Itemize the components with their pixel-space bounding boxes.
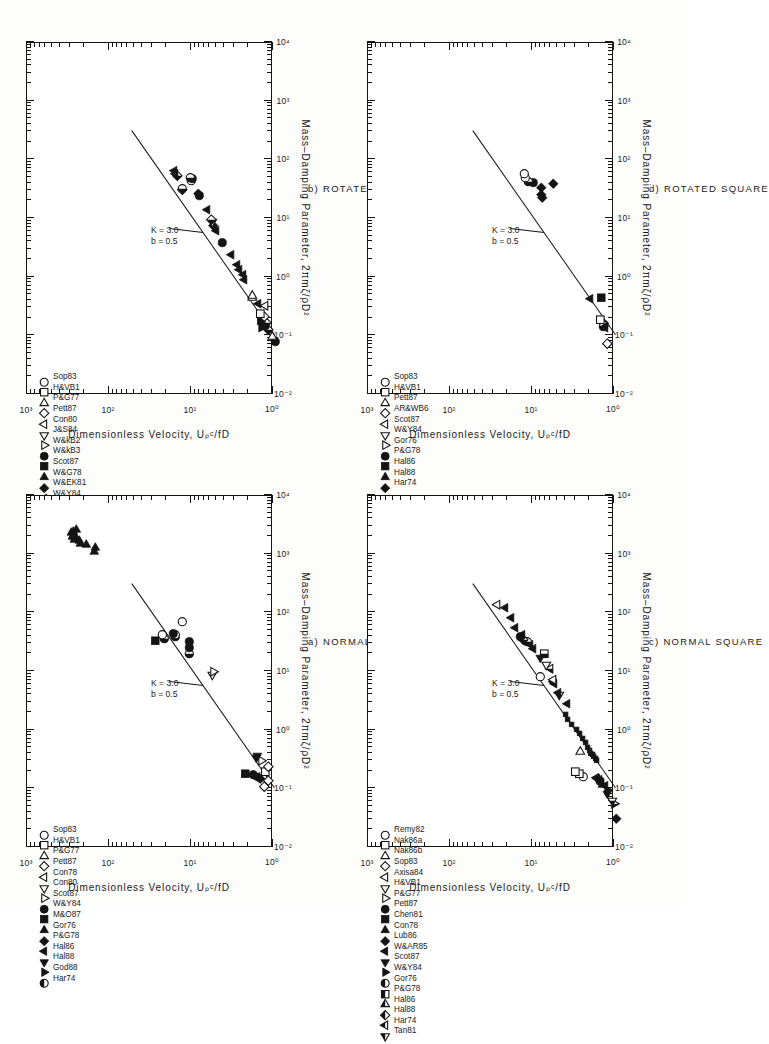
x-minor-tick (608, 620, 613, 621)
x-minor-tick (267, 235, 272, 236)
x-minor-tick-top (26, 167, 31, 168)
x-minor-tick (608, 512, 613, 513)
y-major-tick (613, 386, 614, 394)
x-minor-tick (608, 123, 613, 124)
x-minor-tick (267, 141, 272, 142)
x-minor-tick (608, 317, 613, 318)
x-minor-tick-top (367, 793, 372, 794)
legend-symbol-triangle-right-open-icon (381, 878, 392, 889)
x-minor-tick-top (367, 507, 372, 508)
legend-symbol-triangle-right-open-icon (40, 425, 51, 436)
x-minor-tick-top (367, 558, 372, 559)
x-minor-tick (267, 738, 272, 739)
legend-symbol-diamond-filled-icon (381, 931, 392, 942)
x-minor-tick (608, 281, 613, 282)
x-minor-tick (608, 130, 613, 131)
y-minor-tick-right (539, 42, 540, 47)
x-minor-tick-top (26, 281, 31, 282)
x-minor-tick-top (367, 818, 372, 819)
x-minor-tick-top (26, 731, 31, 732)
y-minor-tick-right (482, 42, 483, 47)
legend-label: Sop83 (53, 372, 77, 382)
data-point (558, 699, 567, 708)
x-minor-tick-top (26, 59, 31, 60)
x-minor-tick-top (367, 711, 372, 712)
x-minor-tick (267, 642, 272, 643)
y-major-tick (190, 386, 191, 394)
x-minor-tick (267, 566, 272, 567)
y-tick-label: 10¹ (184, 858, 197, 868)
y-minor-tick (223, 842, 224, 847)
x-minor-tick-top (367, 240, 372, 241)
y-minor-tick (121, 389, 122, 394)
x-minor-tick-top (367, 171, 372, 172)
x-minor-tick-top (367, 64, 372, 65)
y-minor-tick (121, 842, 122, 847)
x-tick-label: 10³ (277, 549, 290, 559)
data-point (145, 636, 154, 645)
x-minor-tick-top (367, 347, 372, 348)
x-major-tick (605, 553, 613, 554)
x-minor-tick (608, 117, 613, 118)
y-minor-tick-right (556, 495, 557, 500)
legend-label: Pett87 (394, 393, 418, 403)
data-point (597, 339, 606, 348)
legend-label: Hal86 (53, 942, 74, 952)
legend-label: God88 (53, 963, 78, 973)
y-minor-tick-right (392, 495, 393, 500)
x-minor-tick-top (26, 340, 31, 341)
legend-symbol-triangle-right-open-icon (381, 425, 392, 436)
x-minor-tick-top (26, 343, 31, 344)
x-minor-tick-top (367, 624, 372, 625)
data-point (556, 717, 561, 722)
x-minor-tick (608, 365, 613, 366)
x-minor-tick-top (26, 50, 31, 51)
x-minor-tick-top (367, 673, 372, 674)
legend-label: Sop83 (394, 372, 418, 382)
legend-label: W&Y84 (53, 899, 81, 909)
y-minor-tick (203, 389, 204, 394)
x-minor-tick-top (26, 594, 31, 595)
x-minor-tick (267, 113, 272, 114)
y-minor-tick-right (564, 495, 565, 500)
x-minor-tick (267, 64, 272, 65)
x-minor-tick-top (367, 258, 372, 259)
x-minor-tick-top (26, 676, 31, 677)
panel-d-rotor: 10⁻²10⁻¹10⁰10¹10²10³10⁴10⁰10¹10²10³Mass–… (341, 0, 681, 452)
y-minor-tick-right (69, 42, 70, 47)
y-minor-tick (133, 389, 134, 394)
x-minor-tick (267, 688, 272, 689)
y-minor-tick (215, 842, 216, 847)
x-minor-tick-top (26, 105, 31, 106)
legend-label: Axisa84 (394, 868, 423, 878)
panel-c-normal-square: 10⁻²10⁻¹10⁰10¹10²10³10⁴10⁰10¹10²10³Mass–… (341, 453, 681, 905)
x-minor-tick (608, 566, 613, 567)
x-minor-tick (267, 199, 272, 200)
x-minor-tick (608, 161, 613, 162)
legend-label: H&VB1 (53, 383, 80, 393)
y-minor-tick (467, 842, 468, 847)
x-minor-tick-top (26, 117, 31, 118)
y-tick-label: 10⁰ (606, 857, 620, 867)
y-minor-tick (574, 389, 575, 394)
panel-a-rotor: 10⁻²10⁻¹10⁰10¹10²10³10⁴10⁰10¹10²10³Mass–… (0, 453, 340, 905)
x-major-tick (264, 611, 272, 612)
x-minor-tick-top (367, 503, 372, 504)
y-minor-tick-right (400, 42, 401, 47)
y-tick-label: 10² (102, 858, 115, 868)
x-minor-tick (608, 738, 613, 739)
x-minor-tick (608, 711, 613, 712)
y-minor-tick-right (44, 495, 45, 500)
y-minor-tick (198, 842, 199, 847)
y-minor-tick (151, 842, 152, 847)
y-tick-label: 10¹ (184, 405, 197, 415)
legend-label: Con78 (53, 868, 77, 878)
x-minor-tick (267, 109, 272, 110)
y-minor-tick-right (112, 42, 113, 47)
y-minor-tick-right (233, 495, 234, 500)
y-major-tick (531, 839, 532, 847)
x-minor-tick (608, 105, 613, 106)
x-minor-tick (267, 752, 272, 753)
x-axis-title: Mass–Damping Parameter, 2πmζ/ρD² (641, 120, 652, 317)
x-minor-tick (267, 555, 272, 556)
